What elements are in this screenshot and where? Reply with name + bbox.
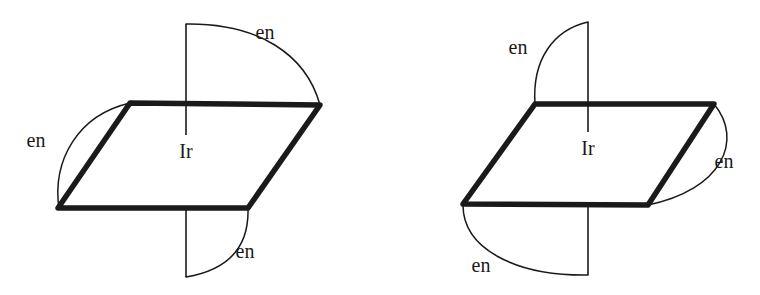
left-metal-label: Ir xyxy=(179,140,193,162)
right-metal-label: Ir xyxy=(581,137,595,159)
right-en-arc-top xyxy=(535,22,588,104)
left-en-label-bottom: en xyxy=(236,240,255,262)
right-en-label-top: en xyxy=(509,36,528,58)
chemical-structure-figure: en en en Ir en en en Ir xyxy=(0,0,760,295)
left-en-label-top: en xyxy=(256,21,275,43)
left-en-arc-top xyxy=(186,24,320,105)
left-complex: en en en Ir xyxy=(27,21,320,277)
right-complex: en en en Ir xyxy=(463,22,733,276)
figure-canvas: en en en Ir en en en Ir xyxy=(0,0,760,295)
right-en-label-right: en xyxy=(715,150,734,172)
right-en-label-bottom: en xyxy=(472,254,491,276)
left-en-label-left: en xyxy=(27,129,46,151)
